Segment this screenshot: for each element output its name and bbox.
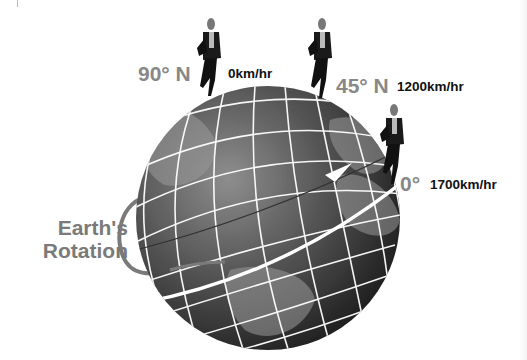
person-figure-45n — [308, 18, 332, 98]
earths-rotation-label: Earth's Rotation — [18, 216, 128, 262]
latitude-label-equator: 0° — [400, 172, 420, 196]
page-edge — [519, 0, 527, 360]
latitude-label-45n: 45° N — [336, 74, 389, 98]
speed-label-equator: 1700km/hr — [430, 177, 497, 192]
rotation-label-line2: Rotation — [18, 239, 128, 262]
globe-icon — [120, 86, 420, 360]
rotation-label-line1: Earth's — [18, 216, 128, 239]
speed-label-45n: 1200km/hr — [397, 79, 464, 94]
latitude-label-90n: 90° N — [138, 62, 191, 86]
person-figure-90n — [197, 18, 221, 96]
speed-label-90n: 0km/hr — [228, 66, 272, 81]
diagram-canvas: 90° N 0km/hr 45° N 1200km/hr 0° 1700km/h… — [0, 0, 527, 360]
